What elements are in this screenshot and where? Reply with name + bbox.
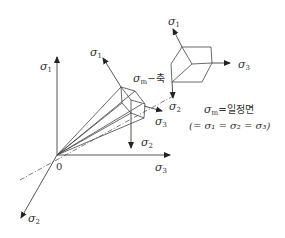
label-sigma3-local: σ3	[155, 115, 167, 129]
hydrostatic-axis-label: σm−축	[133, 72, 165, 86]
origin-label: 0	[56, 161, 62, 172]
label-sigma1-main: σ1	[40, 60, 52, 74]
label-sigma1-local: σ1	[90, 46, 102, 60]
label-sigma1-cube: σ1	[168, 15, 180, 29]
label-sigma2-cube: σ2	[169, 100, 181, 114]
yield-surface-diagram: σ1 σ3 σ2 0 σ1 σ2 σ3 σ1 σ3 σ2 σm−축 σm=일정면…	[0, 0, 285, 238]
yield-cone	[57, 87, 145, 155]
label-sigma3-cube: σ3	[238, 58, 250, 72]
label-sigma2-local: σ2	[141, 136, 153, 150]
plane-label-line2: (= σ₁ = σ₂ = σ₃)	[189, 120, 270, 131]
plane-label-line1: σm=일정면	[204, 103, 254, 117]
label-sigma2-main: σ2	[28, 212, 40, 226]
unit-cube	[171, 29, 230, 98]
label-sigma3-main: σ3	[155, 161, 167, 175]
sigma2-axis	[21, 155, 57, 218]
